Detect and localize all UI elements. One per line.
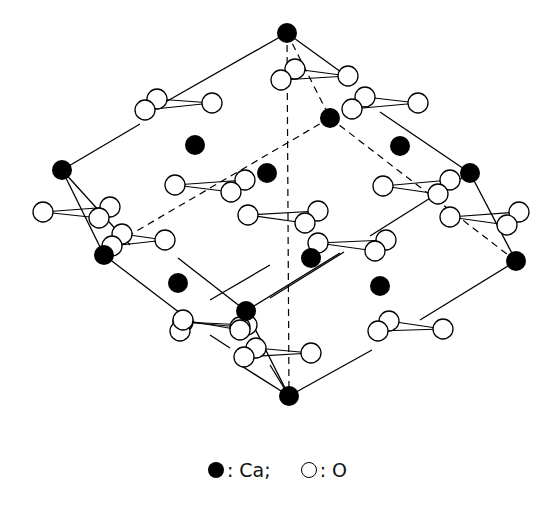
oxygen-atom: [433, 319, 453, 339]
o-triangle-group: [238, 201, 328, 233]
oxygen-atom: [440, 207, 460, 227]
oxygen-atom: [89, 208, 109, 228]
calcium-atom: [185, 135, 205, 155]
legend-label-ca: : Ca;: [227, 459, 271, 481]
oxygen-atom: [234, 347, 254, 367]
crystal-structure-diagram: [0, 0, 555, 510]
oxygen-groups: [33, 59, 529, 367]
calcium-atom: [277, 23, 297, 43]
o-triangle-group: [33, 197, 120, 228]
calcium-atom: [168, 273, 188, 293]
calcium-atom: [257, 163, 277, 183]
oxygen-atom: [135, 100, 155, 120]
oxygen-atom: [221, 182, 241, 202]
o-triangle-group: [135, 89, 222, 120]
oxygen-atom: [155, 230, 175, 250]
calcium-atom: [301, 248, 321, 268]
o-triangle-group: [234, 338, 321, 367]
oxygen-atom: [365, 241, 385, 261]
oxygen-atom: [497, 215, 517, 235]
oxygen-atom: [173, 310, 193, 330]
open-circle-icon: [301, 462, 317, 478]
calcium-atom: [370, 276, 390, 296]
calcium-atom: [279, 386, 299, 406]
oxygen-atom: [295, 213, 315, 233]
legend-label-o: : O: [320, 459, 347, 481]
o-triangle-group: [342, 87, 428, 119]
calcium-atom: [320, 108, 340, 128]
oxygen-atom: [33, 202, 53, 222]
o-triangle-group: [165, 170, 255, 202]
oxygen-atom: [301, 343, 321, 363]
oxygen-atom: [230, 320, 250, 340]
oxygen-atom: [428, 184, 448, 204]
oxygen-atom: [338, 66, 358, 86]
oxygen-atom: [368, 321, 388, 341]
o-triangle-group: [368, 311, 453, 341]
oxygen-atom: [408, 93, 428, 113]
legend-item-o: : O: [301, 459, 347, 481]
o-triangle-group: [373, 170, 460, 204]
oxygen-atom: [165, 175, 185, 195]
oxygen-atom: [238, 205, 258, 225]
calcium-atom: [390, 136, 410, 156]
legend: : Ca; : O: [0, 455, 555, 485]
calcium-atom: [236, 301, 256, 321]
oxygen-atom: [271, 70, 291, 90]
o-triangle-group: [271, 59, 358, 90]
oxygen-atom: [373, 176, 393, 196]
legend-item-ca: : Ca;: [208, 459, 271, 481]
calcium-atom: [506, 251, 526, 271]
o-triangle-group: [440, 202, 529, 235]
calcium-atom: [94, 245, 114, 265]
calcium-atom: [52, 160, 72, 180]
o-triangle-group: [308, 230, 396, 261]
filled-circle-icon: [208, 462, 224, 478]
oxygen-atom: [342, 99, 362, 119]
oxygen-atom: [202, 93, 222, 113]
calcium-atom: [460, 163, 480, 183]
